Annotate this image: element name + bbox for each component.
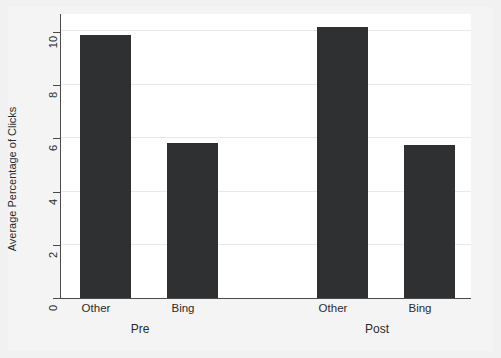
y-tick-label-8: 8 bbox=[47, 85, 59, 105]
y-tick-label-4: 4 bbox=[47, 192, 59, 212]
x-tick-label-pre-bing: Bing bbox=[153, 302, 213, 314]
y-axis-title: Average Percentage of Clicks bbox=[6, 107, 18, 252]
bar-post-other bbox=[317, 27, 368, 298]
plot-area bbox=[61, 14, 471, 298]
bar-pre-other bbox=[80, 35, 131, 298]
x-tick-label-post-bing: Bing bbox=[390, 302, 450, 314]
x-axis-line bbox=[60, 298, 471, 299]
chart-screenshot: 10 8 6 4 2 0 Average Percentage of Click… bbox=[0, 0, 501, 358]
y-axis-line bbox=[60, 14, 61, 299]
x-tick-label-post-other: Other bbox=[303, 302, 363, 314]
y-tick-label-10: 10 bbox=[47, 32, 59, 52]
y-tick-label-0: 0 bbox=[47, 298, 59, 318]
y-tick-label-6: 6 bbox=[47, 138, 59, 158]
y-tick-label-2: 2 bbox=[47, 245, 59, 265]
gridline-10 bbox=[61, 30, 471, 31]
x-tick-label-pre-other: Other bbox=[66, 302, 126, 314]
bar-pre-bing bbox=[167, 143, 218, 298]
x-group-label-post: Post bbox=[347, 322, 407, 336]
bar-post-bing bbox=[404, 145, 455, 298]
x-group-label-pre: Pre bbox=[110, 322, 170, 336]
